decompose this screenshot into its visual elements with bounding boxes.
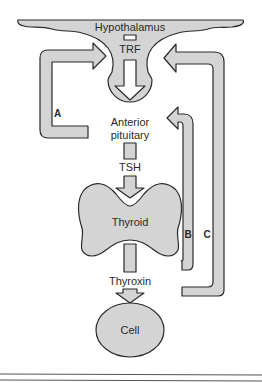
diagram-canvas: Hypothalamus TRF A Anterior pituitary TS… [0,0,262,383]
cell-label: Cell [121,324,140,336]
feedback-diagram: Hypothalamus TRF A Anterior pituitary TS… [0,0,262,383]
thyroxin-label: Thyroxin [109,275,151,287]
tsh-label: TSH [119,161,141,173]
pituitary-label: pituitary [111,129,150,141]
loop-a-label: A [54,108,61,119]
loop-c-path [164,44,224,296]
tsh-arrow [116,176,144,198]
loop-a-path [40,43,106,138]
bottom-rule-1 [0,374,262,375]
loop-b-label: B [184,229,191,240]
thyroxin-arrow [116,289,144,303]
hypothalamus-label: Hypothalamus [95,21,166,33]
thyroxin-stem [124,244,136,272]
trf-release-marker [124,35,136,40]
loop-c-label: C [203,229,210,240]
anterior-label: Anterior [111,116,150,128]
bottom-rule-2 [0,380,262,381]
tsh-connector [124,143,136,159]
trf-label: TRF [119,43,141,55]
thyroid-label: Thyroid [112,216,149,228]
